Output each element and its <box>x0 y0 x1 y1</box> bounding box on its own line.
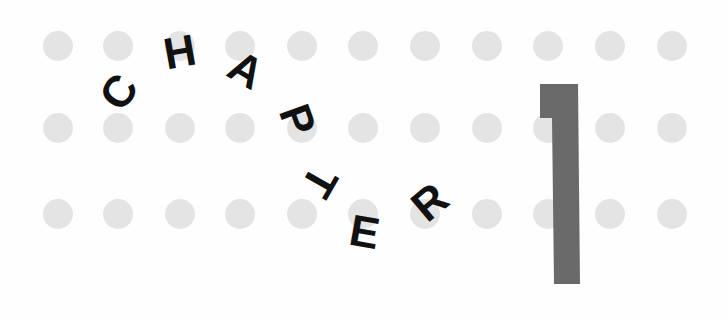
decorative-dot <box>472 199 502 229</box>
decorative-dot <box>533 31 563 61</box>
decorative-dot <box>287 31 317 61</box>
decorative-dot <box>287 199 317 229</box>
decorative-dot <box>657 31 687 61</box>
decorative-dot <box>225 113 255 143</box>
decorative-dot <box>595 113 625 143</box>
decorative-dot <box>472 31 502 61</box>
decorative-dot <box>103 199 133 229</box>
decorative-dot <box>348 113 378 143</box>
decorative-dot <box>225 199 255 229</box>
chapter-letter-h: H <box>160 28 199 77</box>
decorative-dot <box>410 113 440 143</box>
decorative-dot <box>43 199 73 229</box>
chapter-letter-p: P <box>272 99 323 142</box>
decorative-dot <box>657 113 687 143</box>
decorative-dot <box>410 31 440 61</box>
decorative-dot <box>348 31 378 61</box>
chapter-letter-c: C <box>92 66 146 117</box>
decorative-dot <box>43 113 73 143</box>
decorative-dot <box>103 31 133 61</box>
decorative-dot <box>165 113 195 143</box>
chapter-heading-graphic: C H A P T E R <box>0 0 727 319</box>
chapter-letter-e: E <box>346 208 383 256</box>
decorative-dot <box>472 113 502 143</box>
chapter-number-one <box>540 84 580 284</box>
decorative-dot <box>165 199 195 229</box>
decorative-dot <box>595 31 625 61</box>
decorative-dot <box>657 199 687 229</box>
decorative-dot <box>43 31 73 61</box>
decorative-dot <box>595 199 625 229</box>
chapter-letter-t: T <box>294 159 346 204</box>
